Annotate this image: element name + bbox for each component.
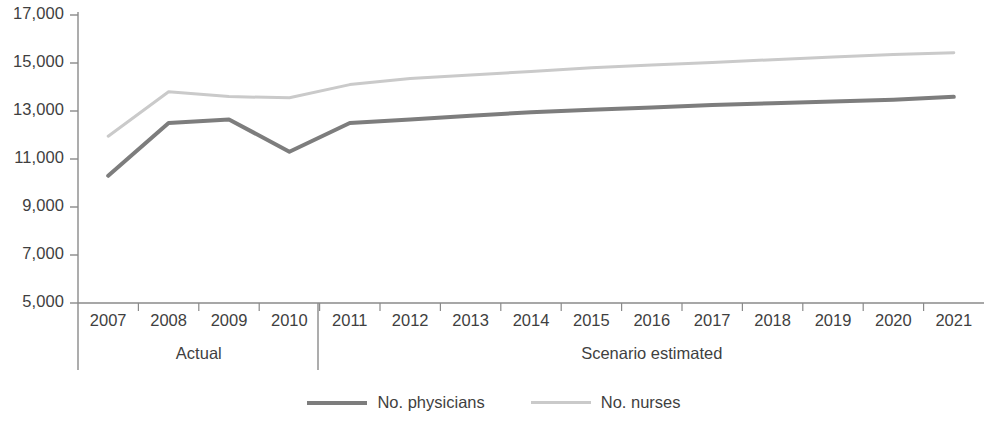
y-axis-ticks [70,15,78,303]
y-axis-tick-label: 17,000 [0,4,64,23]
y-axis-tick-label: 9,000 [0,196,64,215]
legend-label-nurses: No. nurses [601,393,681,412]
x-axis-tick-label: 2016 [622,311,682,330]
x-axis-tick-label: 2007 [78,311,138,330]
x-axis-tick-label: 2010 [259,311,319,330]
x-axis-tick-label: 2018 [742,311,802,330]
x-axis-tick-label: 2021 [924,311,984,330]
legend-item-physicians: No. physicians [307,393,484,412]
x-axis-ticks [138,303,923,311]
x-axis-tick-label: 2011 [320,311,380,330]
legend-item-nurses: No. nurses [531,393,681,412]
x-axis-tick-label: 2015 [561,311,621,330]
x-axis-tick-label: 2009 [199,311,259,330]
x-axis-tick-label: 2013 [440,311,500,330]
period-label-scenario-estimated: Scenario estimated [320,344,984,363]
y-axis-tick-label: 5,000 [0,292,64,311]
series-line-no-physicians [108,97,954,176]
y-axis-tick-label: 15,000 [0,52,64,71]
x-axis-tick-label: 2019 [803,311,863,330]
y-axis-tick-label: 7,000 [0,244,64,263]
period-label-actual: Actual [78,344,320,363]
line-chart: 17,00015,00013,00011,0009,0007,0005,000 … [0,0,988,423]
legend-swatch-nurses-icon [531,401,591,404]
y-axis-tick-label: 13,000 [0,100,64,119]
x-axis-tick-label: 2020 [863,311,923,330]
x-axis-tick-label: 2012 [380,311,440,330]
legend-label-physicians: No. physicians [377,393,484,412]
x-axis-tick-label: 2017 [682,311,742,330]
legend-swatch-physicians-icon [307,401,367,405]
y-axis-tick-label: 11,000 [0,148,64,167]
chart-legend: No. physicians No. nurses [0,393,988,412]
x-axis-tick-label: 2014 [501,311,561,330]
x-axis-tick-label: 2008 [138,311,198,330]
